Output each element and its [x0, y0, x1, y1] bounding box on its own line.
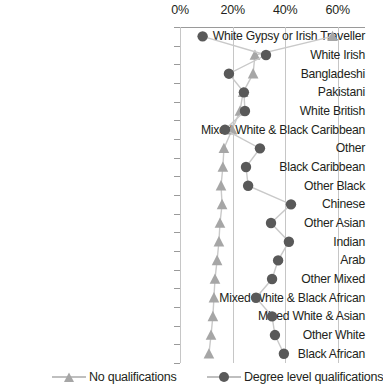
triangle-marker-icon	[52, 370, 86, 384]
category-label: Other	[195, 142, 371, 155]
gridline-0	[180, 27, 181, 363]
chart-legend: No qualifications Degree level qualifica…	[0, 368, 371, 391]
y-tick	[174, 270, 180, 271]
y-tick	[174, 139, 180, 140]
category-label: Mixed White & Asian	[195, 310, 371, 323]
legend-label: No qualifications	[89, 370, 176, 384]
category-label: White British	[195, 105, 371, 118]
category-label: Black African	[195, 347, 371, 360]
series-line	[203, 36, 291, 353]
y-tick	[174, 158, 180, 159]
circle-marker-icon	[207, 370, 241, 384]
category-label: White Gypsy or Irish Traveller	[195, 30, 371, 43]
legend-item-no-qualifications: No qualifications	[52, 370, 176, 384]
y-tick	[174, 46, 180, 47]
y-tick	[174, 307, 180, 308]
y-tick	[174, 214, 180, 215]
category-label: Pakistani	[195, 86, 371, 99]
y-tick	[174, 120, 180, 121]
x-tick-label: 0%	[171, 3, 189, 17]
series-line	[209, 36, 333, 353]
x-tick-label: 20%	[220, 3, 244, 17]
category-label: Other Mixed	[195, 273, 371, 286]
category-label: Bangladeshi	[195, 67, 371, 80]
category-label: Other Asian	[195, 217, 371, 230]
y-tick	[174, 64, 180, 65]
category-label: Indian	[195, 235, 371, 248]
y-tick	[174, 195, 180, 196]
legend-label: Degree level qualifications	[244, 370, 383, 384]
x-tick-label: 40%	[273, 3, 297, 17]
category-label: Chinese	[195, 198, 371, 211]
category-label: Black Caribbean	[195, 161, 371, 174]
y-tick	[174, 102, 180, 103]
category-label: White Irish	[195, 49, 371, 62]
x-tick-label: 60%	[326, 3, 350, 17]
y-tick	[174, 251, 180, 252]
category-label: Mixed White & Black African	[195, 291, 371, 304]
category-label: Mixed White & Black Caribbean	[195, 123, 371, 136]
y-tick	[174, 363, 180, 364]
y-tick	[174, 326, 180, 327]
y-tick	[174, 232, 180, 233]
category-label: Other White	[195, 329, 371, 342]
category-label: Other Black	[195, 179, 371, 192]
y-tick	[174, 27, 180, 28]
y-tick	[174, 344, 180, 345]
y-tick	[174, 288, 180, 289]
y-tick	[174, 176, 180, 177]
legend-item-degree-level-qualifications: Degree level qualifications	[207, 370, 383, 384]
y-tick	[174, 83, 180, 84]
category-label: Arab	[195, 254, 371, 267]
